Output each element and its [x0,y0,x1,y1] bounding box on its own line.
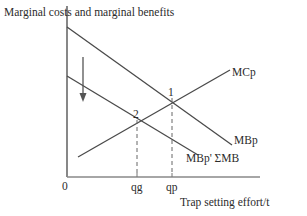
x-tick-label-origin: 0 [62,180,68,194]
curve-label-mbp-shifted: MBp' ΣMB [186,152,239,166]
curve-label-mcp: MCp [232,66,256,80]
y-axis-label: Marginal costs and marginal benefits [4,6,66,20]
curve-mbp [67,27,232,145]
equilibrium-point-label-2: 2 [133,108,139,122]
x-axis-label: Trap setting effort/t [180,196,269,210]
curve-mcp [78,70,230,157]
equilibrium-point-label-1: 1 [168,86,174,100]
x-tick-label-qg: qg [131,181,143,195]
plot-area [0,0,307,216]
shift-arrow-head [80,93,87,102]
economics-diagram: Marginal costs and marginal benefits Tra… [0,0,307,216]
curve-label-mbp: MBp [234,134,258,148]
x-tick-label-qp: qp [166,181,178,195]
